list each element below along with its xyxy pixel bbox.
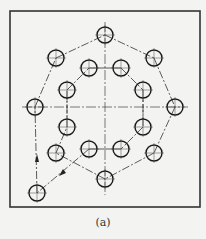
path-segment <box>56 127 67 153</box>
arrow-up-icon <box>35 154 39 162</box>
path-segment <box>67 68 89 90</box>
path-segment <box>121 127 143 149</box>
figure-caption: (a) <box>0 216 206 229</box>
path-segment <box>121 68 143 90</box>
arrow-down-left-icon <box>59 169 66 176</box>
path-segment <box>35 107 37 193</box>
hole-pattern-drawing <box>0 0 206 239</box>
